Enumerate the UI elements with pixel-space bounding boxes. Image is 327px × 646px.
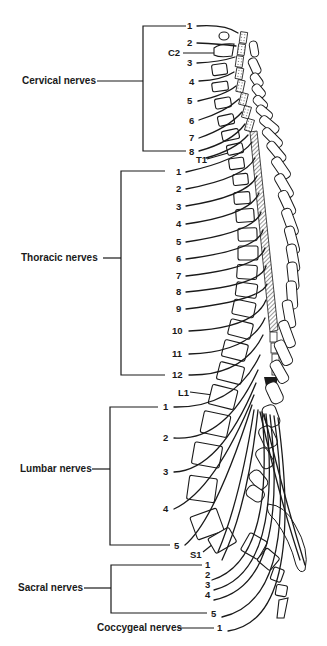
lumbar-bracket: [110, 407, 170, 545]
spinal-nerves-diagram: Cervical nerves Thoracic nerves Lumbar n…: [0, 0, 327, 646]
thoracic-nerves-label: Thoracic nerves: [21, 252, 98, 263]
thoracic-4-label: 4: [176, 218, 182, 229]
cervical-numbers: 1 2 3 4 5 6 7 8: [187, 20, 195, 157]
thoracic-12-label: 12: [172, 369, 183, 380]
lumbar-group: Lumbar nerves: [20, 407, 170, 545]
lumbar-1-label: 1: [163, 401, 169, 412]
lumbar-nerves-label: Lumbar nerves: [20, 463, 92, 474]
l1-pointer: [190, 392, 213, 395]
cervical-3-label: 3: [187, 57, 192, 68]
thoracic-numbers: 1 2 3 4 5 6 7 8 9 10 11 12: [172, 166, 183, 380]
thoracic-8-label: 8: [176, 286, 181, 297]
sacral-nerves-label: Sacral nerves: [18, 582, 83, 593]
thoracic-2-label: 2: [176, 183, 181, 194]
lumbar-5-label: 5: [174, 540, 180, 551]
sacral-group: Sacral nerves: [18, 565, 207, 613]
thoracic-5-label: 5: [176, 236, 182, 247]
cervical-group: Cervical nerves: [22, 26, 186, 151]
cervical-6-label: 6: [189, 115, 194, 126]
cervical-8-label: 8: [189, 146, 194, 157]
sacral-bracket: [111, 565, 207, 613]
thoracic-9-label: 9: [176, 303, 181, 314]
coccygeal-group: Coccygeal nerves: [97, 622, 214, 633]
t1-marker-label: T1: [196, 154, 208, 165]
lumbar-3-label: 3: [163, 466, 168, 477]
cervical-5-label: 5: [187, 95, 193, 106]
s1-marker-label: S1: [190, 549, 202, 560]
thoracic-11-label: 11: [172, 348, 183, 359]
cervical-2-label: 2: [187, 37, 192, 48]
thoracic-7-label: 7: [176, 270, 181, 281]
thoracic-3-label: 3: [176, 201, 181, 212]
cervical-bracket: [143, 26, 186, 151]
thoracic-10-label: 10: [172, 325, 183, 336]
coccygeal-1-label: 1: [217, 622, 223, 633]
lumbar-2-label: 2: [163, 432, 168, 443]
coccygeal-nerves-label: Coccygeal nerves: [97, 622, 182, 633]
lumbar-numbers: 1 2 3 4 5: [163, 401, 180, 551]
cervical-4-label: 4: [189, 76, 195, 87]
sacral-4-label: 4: [205, 589, 211, 600]
cervical-nerves-label: Cervical nerves: [22, 75, 96, 86]
thoracic-group: Thoracic nerves: [21, 171, 165, 375]
l1-marker-label: L1: [178, 387, 190, 398]
cervical-1-label: 1: [187, 20, 193, 31]
lumbar-4-label: 4: [163, 503, 169, 514]
sacral-5-label: 5: [211, 608, 217, 619]
thoracic-6-label: 6: [176, 253, 181, 264]
cervical-7-label: 7: [189, 132, 194, 143]
thoracic-bracket: [121, 171, 165, 375]
thoracic-1-label: 1: [176, 166, 182, 177]
c2-marker-label: C2: [168, 47, 180, 58]
